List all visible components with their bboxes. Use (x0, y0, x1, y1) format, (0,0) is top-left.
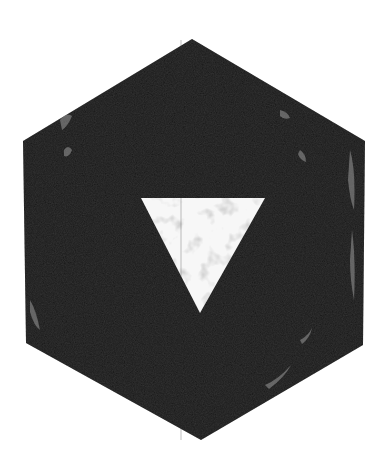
graphic-svg (0, 0, 391, 466)
hexagon-triangle-graphic (0, 0, 391, 466)
